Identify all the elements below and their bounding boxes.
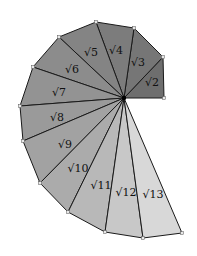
label-sqrt-8: √8 — [50, 111, 64, 124]
right-angle-marker — [32, 66, 35, 69]
right-angle-marker — [58, 36, 61, 39]
label-sqrt-4: √4 — [109, 44, 123, 57]
right-angle-marker — [163, 97, 166, 100]
label-sqrt-7: √7 — [52, 86, 66, 99]
right-angle-marker — [104, 231, 107, 234]
label-sqrt-10: √10 — [67, 162, 88, 175]
right-angle-marker — [39, 182, 42, 185]
label-sqrt-3: √3 — [131, 56, 145, 69]
label-sqrt-12: √12 — [115, 186, 136, 199]
label-sqrt-13: √13 — [142, 188, 163, 201]
right-angle-marker — [162, 56, 165, 59]
label-sqrt-11: √11 — [90, 179, 111, 192]
right-angle-marker — [67, 211, 70, 214]
right-angle-marker — [19, 105, 22, 108]
triangles — [20, 22, 182, 238]
right-angle-marker — [133, 27, 136, 30]
right-angle-marker — [142, 237, 145, 240]
center-point — [122, 96, 126, 100]
right-angle-marker — [95, 21, 98, 24]
label-sqrt-2: √2 — [145, 76, 159, 89]
label-sqrt-9: √9 — [58, 138, 72, 151]
right-angle-marker — [181, 232, 184, 235]
right-angle-marker — [22, 140, 25, 143]
label-sqrt-6: √6 — [65, 63, 79, 76]
spiral-of-theodorus: √2√3√4√5√6√7√8√9√10√11√12√13 — [0, 0, 197, 256]
label-sqrt-5: √5 — [84, 46, 98, 59]
